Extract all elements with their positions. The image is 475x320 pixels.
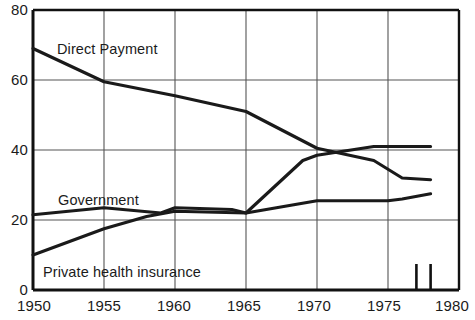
series-line-direct-payment: [33, 49, 431, 180]
direct-payment-label: Direct Payment: [57, 41, 158, 57]
y-tick-label-20: 20: [2, 211, 28, 228]
y-tick-label-0: 0: [2, 281, 28, 298]
x-tick-label-1980: 1980: [430, 297, 474, 314]
y-tick-label-40: 40: [2, 141, 28, 158]
minor-tick-marks: [416, 264, 430, 290]
x-tick-label-1975: 1975: [362, 297, 406, 314]
government-label: Government: [58, 192, 139, 208]
x-tick-label-1960: 1960: [152, 297, 196, 314]
x-tick-label-1965: 1965: [222, 297, 266, 314]
x-tick-label-1970: 1970: [292, 297, 336, 314]
y-tick-label-60: 60: [2, 71, 28, 88]
x-tick-label-1950: 1950: [12, 297, 56, 314]
chart-container: 80 60 40 20 0 1950 1955 1960 1965 1970 1…: [0, 0, 475, 320]
private-health-insurance-label: Private health insurance: [43, 264, 201, 280]
x-tick-label-1955: 1955: [82, 297, 126, 314]
y-tick-label-80: 80: [2, 1, 28, 18]
